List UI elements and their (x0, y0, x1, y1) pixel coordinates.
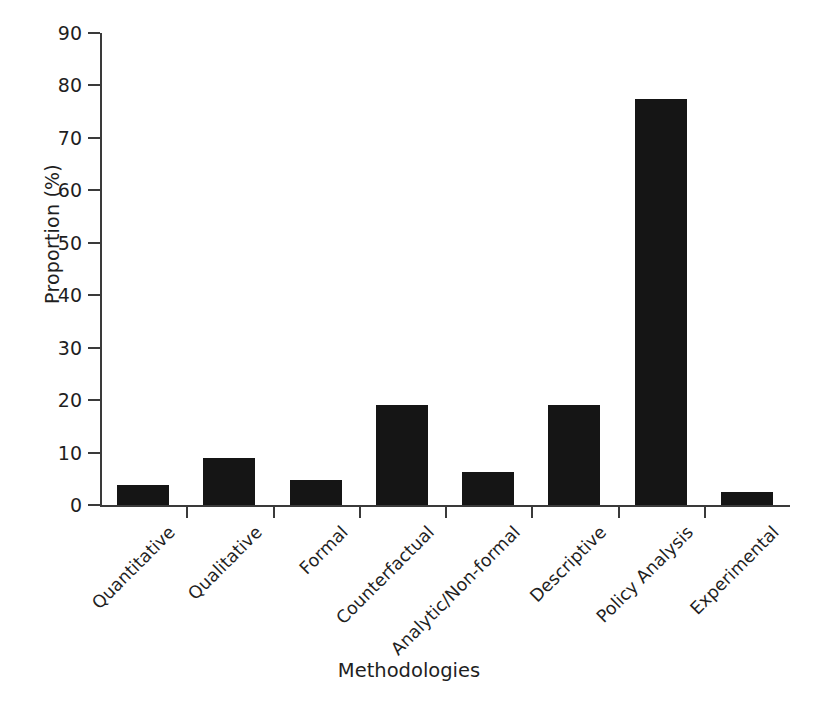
x-tick-mark (704, 507, 706, 518)
y-tick-mark (88, 347, 100, 349)
x-category-label-text: Qualitative (184, 522, 266, 604)
y-tick-label: 90 (34, 22, 82, 44)
x-category-label-text: Experimental (686, 522, 783, 619)
y-tick-mark (88, 189, 100, 191)
bar (462, 472, 514, 505)
bar (290, 480, 342, 505)
y-tick-label: 30 (34, 337, 82, 359)
y-tick-mark (88, 504, 100, 506)
x-tick-mark (273, 507, 275, 518)
y-tick-label: 80 (34, 74, 82, 96)
y-tick-label: 70 (34, 127, 82, 149)
y-tick-mark (88, 399, 100, 401)
y-tick-label: 10 (34, 442, 82, 464)
bar (635, 99, 687, 505)
y-tick-label: 60 (34, 179, 82, 201)
bar (203, 458, 255, 505)
x-axis-title: Methodologies (0, 659, 818, 682)
y-tick-mark (88, 452, 100, 454)
bar (548, 405, 600, 505)
x-tick-mark (186, 507, 188, 518)
y-tick-label: 0 (34, 494, 82, 516)
x-tick-mark (618, 507, 620, 518)
x-category-label-text: Descriptive (526, 522, 610, 606)
x-category-label-text: Formal (295, 522, 351, 578)
y-tick-label: 20 (34, 389, 82, 411)
y-tick-mark (88, 242, 100, 244)
bar (721, 492, 773, 505)
bars-container (100, 33, 790, 505)
x-category-label-text: Quantitative (88, 522, 179, 613)
y-tick-mark (88, 294, 100, 296)
y-tick-label: 50 (34, 232, 82, 254)
y-tick-label: 40 (34, 284, 82, 306)
x-tick-mark (359, 507, 361, 518)
y-tick-mark (88, 84, 100, 86)
y-tick-mark (88, 32, 100, 34)
x-tick-mark (531, 507, 533, 518)
bar (376, 405, 428, 505)
x-tick-mark (445, 507, 447, 518)
bar-chart: Proportion (%) 0102030405060708090 Quant… (0, 0, 818, 723)
bar (117, 485, 169, 505)
y-tick-mark (88, 137, 100, 139)
